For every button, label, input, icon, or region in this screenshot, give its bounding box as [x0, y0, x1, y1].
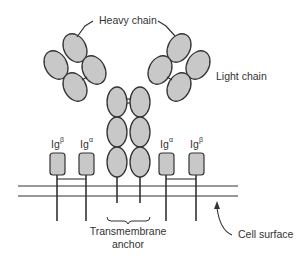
stem-left-domain-3	[107, 147, 127, 177]
bcr-diagram: Heavy chain Light chain Transmembrane an…	[0, 0, 306, 257]
ig-beta-right-label: Ig	[190, 138, 199, 150]
stem-right-domain-2	[130, 117, 150, 147]
ig-beta-left-sup: β	[60, 136, 64, 144]
heavy-chain-label: Heavy chain	[99, 14, 157, 26]
stem-right-domain-3	[130, 147, 150, 177]
ig-alpha-right-box	[159, 153, 174, 175]
stem-left-domain-2	[107, 117, 127, 147]
cell-surface-label: Cell surface	[238, 228, 294, 240]
cell-surface-arrow	[217, 208, 232, 235]
transmembrane-brace	[107, 217, 150, 224]
ig-alpha-right-label: Ig	[160, 138, 169, 150]
ig-beta-left-box	[50, 153, 65, 175]
stem-right-domain-1	[130, 87, 150, 117]
ig-alpha-left-box	[79, 153, 94, 175]
ig-beta-left-label: Ig	[51, 138, 60, 150]
cell-surface-arrowhead	[214, 201, 220, 209]
heavy-chain-pointer-left	[77, 21, 93, 37]
stem-left-domain-1	[107, 87, 127, 117]
light-chain-label: Light chain	[216, 70, 267, 82]
transmembrane-label-line2: anchor	[112, 238, 145, 250]
ig-alpha-left-sup: α	[89, 136, 93, 143]
ig-alpha-right-sup: α	[169, 136, 173, 143]
ig-beta-right-sup: β	[199, 136, 203, 144]
ig-alpha-left-label: Ig	[80, 138, 89, 150]
transmembrane-label-line1: Transmembrane	[90, 225, 167, 237]
ig-beta-right-box	[189, 153, 204, 175]
heavy-chain-pointer-right	[158, 21, 175, 36]
